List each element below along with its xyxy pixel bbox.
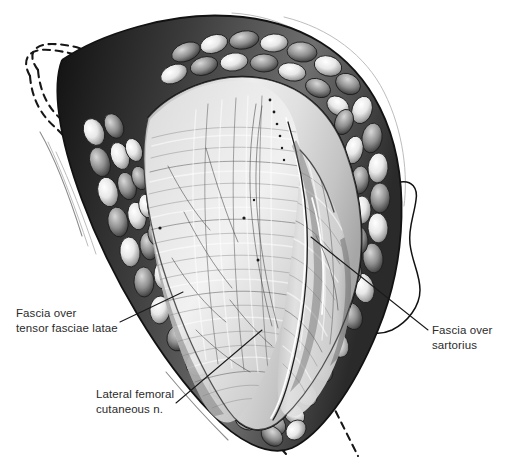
surgical-illustration-figure: Surgical exposure of the anterior hip: i… [0, 0, 507, 468]
illustration-canvas: Surgical exposure of the anterior hip: i… [0, 0, 507, 468]
label-lfcn-line2: cutaneous n. [96, 403, 163, 415]
label-fascia-tfl-line2: tensor fasciae latae [16, 322, 118, 334]
label-fascia-sartorius-line2: sartorius [432, 339, 477, 351]
label-lfcn-line1: Lateral femoral [96, 388, 174, 400]
label-fascia-tfl-line1: Fascia over [16, 307, 77, 319]
label-fascia-sartorius-line1: Fascia over [432, 324, 493, 336]
